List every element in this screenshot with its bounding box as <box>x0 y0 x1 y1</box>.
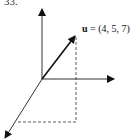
coordinate-diagram <box>0 0 130 140</box>
x-axis <box>5 79 42 138</box>
vector-u-arrow <box>42 36 75 79</box>
